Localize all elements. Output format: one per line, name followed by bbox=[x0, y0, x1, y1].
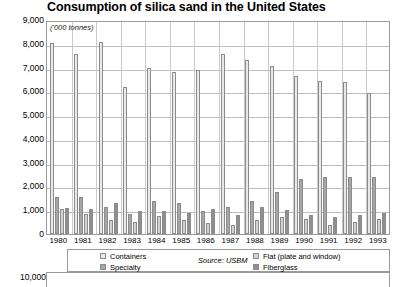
y-tick-label: 0 bbox=[0, 229, 44, 239]
legend-item: Specialty bbox=[100, 262, 146, 272]
bar bbox=[50, 43, 54, 234]
bar bbox=[79, 197, 83, 234]
bar bbox=[152, 201, 156, 234]
bar bbox=[318, 81, 322, 234]
legend-swatch-icon bbox=[100, 253, 106, 259]
bar bbox=[260, 207, 264, 234]
bar bbox=[280, 217, 284, 234]
x-axis-labels: 1980198119821983198419851986198719881989… bbox=[46, 236, 390, 249]
bar-group bbox=[267, 22, 291, 234]
x-tick-label: 1987 bbox=[218, 236, 243, 249]
bar bbox=[367, 93, 371, 234]
bar bbox=[89, 209, 93, 234]
bar bbox=[133, 222, 137, 234]
bar bbox=[304, 219, 308, 234]
y-tick-label: 1,000 bbox=[0, 205, 44, 215]
bar bbox=[377, 219, 381, 234]
y-tick-label: 9,000 bbox=[0, 15, 44, 25]
bar bbox=[60, 209, 64, 234]
bar bbox=[353, 222, 357, 234]
bar-group bbox=[242, 22, 266, 234]
x-tick-label: 1981 bbox=[71, 236, 96, 249]
legend-item: Containers bbox=[100, 251, 146, 261]
x-tick-label: 1980 bbox=[46, 236, 71, 249]
bar bbox=[109, 220, 113, 234]
bar bbox=[84, 214, 88, 234]
bar bbox=[114, 203, 118, 234]
bar bbox=[196, 70, 200, 234]
legend-label: Fiberglass bbox=[263, 263, 298, 272]
bar-group bbox=[169, 22, 193, 234]
bar bbox=[255, 220, 259, 234]
bar bbox=[245, 60, 249, 234]
y-tick-label: 6,000 bbox=[0, 86, 44, 96]
bar-group bbox=[291, 22, 315, 234]
bar-group bbox=[194, 22, 218, 234]
bar bbox=[343, 82, 347, 234]
bar-group bbox=[145, 22, 169, 234]
legend-item: Fiberglass bbox=[253, 262, 341, 272]
legend-swatch-icon bbox=[100, 264, 106, 270]
bar bbox=[55, 197, 59, 234]
next-chart-frame bbox=[46, 272, 390, 287]
y-tick-label: 2,000 bbox=[0, 181, 44, 191]
bar bbox=[104, 207, 108, 234]
x-tick-label: 1985 bbox=[169, 236, 194, 249]
x-tick-label: 1988 bbox=[243, 236, 268, 249]
chart-legend: ContainersSpecialty Flat (plate and wind… bbox=[67, 249, 390, 272]
bar bbox=[323, 177, 327, 234]
y-tick-label: 8,000 bbox=[0, 39, 44, 49]
y-tick-label: 4,000 bbox=[0, 134, 44, 144]
bar-group bbox=[218, 22, 242, 234]
bar bbox=[123, 87, 127, 234]
bar-group bbox=[120, 22, 144, 234]
bar bbox=[162, 211, 166, 234]
x-tick-label: 1986 bbox=[193, 236, 218, 249]
bar bbox=[226, 207, 230, 234]
legend-swatch-icon bbox=[253, 264, 259, 270]
bar bbox=[74, 54, 78, 234]
x-tick-label: 1992 bbox=[341, 236, 366, 249]
bar bbox=[177, 203, 181, 234]
bar-group bbox=[316, 22, 340, 234]
bar bbox=[138, 211, 142, 234]
legend-column-left: ContainersSpecialty bbox=[100, 251, 146, 273]
y-tick-label: 5,000 bbox=[0, 110, 44, 120]
bar-group bbox=[340, 22, 364, 234]
legend-swatch-icon bbox=[253, 253, 259, 259]
next-chart-ytick: 10,000 bbox=[2, 272, 46, 282]
bar bbox=[128, 214, 132, 234]
x-tick-label: 1982 bbox=[95, 236, 120, 249]
bar bbox=[270, 66, 274, 234]
bar bbox=[328, 225, 332, 234]
bar bbox=[358, 215, 362, 234]
bar bbox=[157, 216, 161, 234]
x-tick-label: 1983 bbox=[120, 236, 145, 249]
x-tick-label: 1990 bbox=[292, 236, 317, 249]
legend-item: Flat (plate and window) bbox=[253, 251, 341, 261]
legend-label: Specialty bbox=[110, 263, 140, 272]
bar-group bbox=[96, 22, 120, 234]
bar bbox=[294, 76, 298, 234]
y-tick-label: 3,000 bbox=[0, 158, 44, 168]
units-label: ('000 tonnes) bbox=[50, 23, 94, 32]
bar bbox=[250, 201, 254, 234]
chart-title: Consumption of silica sand in the United… bbox=[47, 0, 377, 14]
bar bbox=[285, 210, 289, 234]
bar bbox=[231, 225, 235, 235]
bar bbox=[221, 54, 225, 234]
bar bbox=[348, 177, 352, 234]
x-tick-label: 1991 bbox=[316, 236, 341, 249]
bar-group bbox=[47, 22, 71, 234]
bar-group bbox=[364, 22, 388, 234]
bar bbox=[65, 208, 69, 234]
x-tick-label: 1989 bbox=[267, 236, 292, 249]
bar bbox=[211, 209, 215, 234]
bar bbox=[236, 215, 240, 234]
bar bbox=[187, 213, 191, 234]
bar bbox=[182, 220, 186, 234]
x-tick-label: 1984 bbox=[144, 236, 169, 249]
plot-area: ('000 tonnes) bbox=[46, 21, 390, 235]
bar bbox=[382, 213, 386, 234]
bar bbox=[172, 72, 176, 234]
